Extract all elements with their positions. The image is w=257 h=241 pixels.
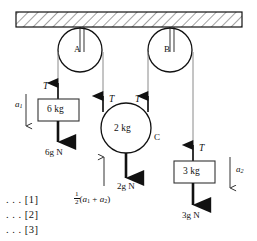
accel-c-paren-close: ) — [107, 194, 110, 204]
accel-c-a1-subscript: 1 — [87, 198, 90, 204]
tension-label-c-right: T — [135, 95, 140, 105]
equation-ref-2: . . . [2] — [6, 209, 39, 224]
pulley-b-label: B — [164, 45, 170, 54]
pulley-c-2kg-label: 2 kg — [114, 124, 131, 134]
tension-label-right: T — [199, 144, 204, 154]
accel-c-plus-sign: + — [92, 194, 97, 204]
weight-label-2kg: 2g N — [117, 182, 135, 191]
block-6kg-label: 6 kg — [47, 105, 64, 115]
equation-ref-1: . . . [1] — [6, 194, 39, 209]
accel-a1-label: a1 — [15, 100, 23, 109]
ceiling-hatched-bar — [16, 12, 242, 27]
block-3kg-label: 3 kg — [183, 167, 200, 177]
equation-ref-3: . . . [3] — [6, 224, 39, 239]
weight-label-6kg: 6g N — [45, 148, 63, 157]
physics-diagram-figure: A B T T T T 6 kg 2 kg C 3 kg 6g N 2g N 3… — [0, 0, 257, 241]
diagram-canvas — [0, 0, 257, 241]
equation-reference-list: . . . [1] . . . [2] . . . [3] — [6, 194, 39, 239]
weight-label-3kg: 3g N — [182, 211, 200, 220]
tension-label-left: T — [43, 82, 48, 92]
pulley-c-tag-label: C — [154, 133, 160, 142]
pulley-a-label: A — [74, 45, 81, 54]
accel-a2-label: a2 — [236, 165, 244, 174]
pulley-c-2kg-group — [101, 103, 151, 178]
accel-c-expression-label: 1 2 (a1 + a2) — [74, 191, 110, 206]
accel-a1-subscript: 1 — [20, 103, 23, 109]
tension-label-c-left: T — [109, 95, 114, 105]
ceiling-support — [16, 12, 242, 27]
accel-a2-subscript: 2 — [241, 168, 244, 174]
